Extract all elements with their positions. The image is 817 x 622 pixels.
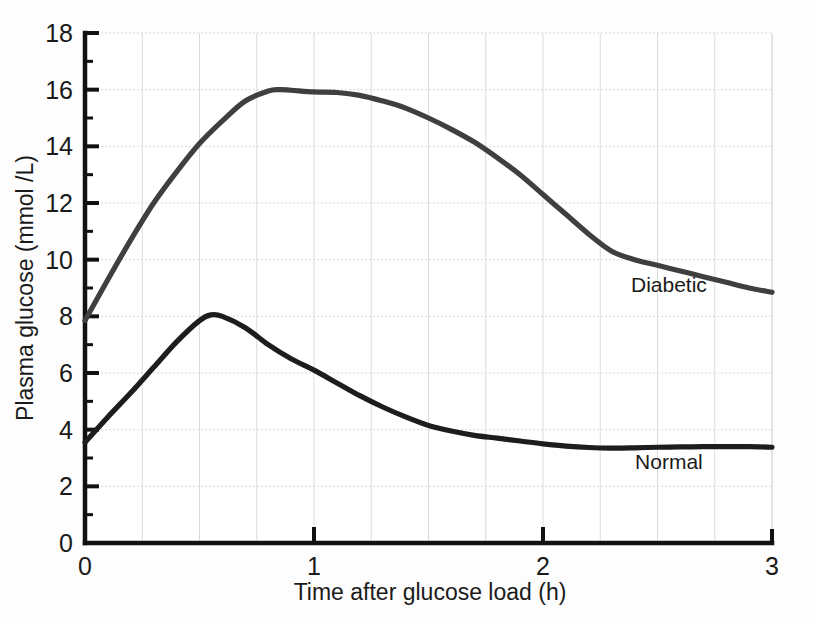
y-tick-label-8: 8 bbox=[59, 302, 73, 330]
y-axis-tick-labels: 024681012141618 bbox=[45, 19, 73, 557]
x-axis-tick-labels: 0123 bbox=[78, 552, 779, 580]
glucose-tolerance-line-chart: 024681012141618 0123 Diabetic Normal Pla… bbox=[0, 0, 817, 622]
y-axis-title: Plasma glucose (mmol /L) bbox=[12, 155, 38, 421]
y-tick-label-14: 14 bbox=[45, 132, 73, 160]
y-tick-label-12: 12 bbox=[45, 189, 73, 217]
x-tick-label-2: 2 bbox=[536, 552, 550, 580]
x-tick-label-3: 3 bbox=[765, 552, 779, 580]
y-tick-label-2: 2 bbox=[59, 472, 73, 500]
series-label-diabetic: Diabetic bbox=[631, 273, 707, 296]
y-tick-label-10: 10 bbox=[45, 246, 73, 274]
y-tick-label-0: 0 bbox=[59, 529, 73, 557]
x-tick-label-0: 0 bbox=[78, 552, 92, 580]
y-tick-label-18: 18 bbox=[45, 19, 73, 47]
x-tick-label-1: 1 bbox=[307, 552, 321, 580]
chart-figure: 024681012141618 0123 Diabetic Normal Pla… bbox=[0, 0, 817, 622]
y-tick-label-4: 4 bbox=[59, 416, 73, 444]
series-label-normal: Normal bbox=[635, 450, 703, 473]
y-tick-label-6: 6 bbox=[59, 359, 73, 387]
x-axis-title: Time after glucose load (h) bbox=[294, 579, 567, 605]
y-tick-label-16: 16 bbox=[45, 76, 73, 104]
